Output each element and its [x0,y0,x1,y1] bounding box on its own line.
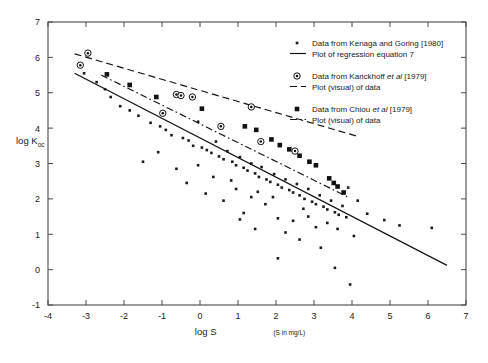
data-point [292,220,295,223]
data-point [272,196,275,199]
data-point [192,145,195,148]
data-point [288,189,291,192]
data-point [287,147,292,152]
data-point [353,235,356,238]
data-point [336,228,339,231]
y-tick-label: 1 [35,230,40,240]
data-point [284,178,287,181]
data-point-core [260,140,263,143]
data-point [226,150,229,153]
data-point [197,164,200,167]
data-point [105,72,110,77]
data-point [269,137,274,142]
data-point [109,96,112,99]
data-point [197,120,200,123]
x-tick-label: 0 [197,311,202,321]
data-point-core [87,52,90,55]
data-point [334,267,337,270]
data-point-core [191,96,194,99]
data-point [307,188,310,191]
data-point-core [294,150,297,153]
x-axis-units: (S in mg/L) [273,329,305,337]
y-tick-label: 0 [35,265,40,275]
data-point [398,224,401,227]
data-point-core [220,125,223,128]
data-point [246,169,249,172]
data-point [206,149,209,152]
data-point [242,166,245,169]
data-point [149,122,152,125]
data-point [315,226,318,229]
data-point [231,160,234,163]
data-point [273,173,276,176]
data-point [254,128,259,133]
x-tick-label: -3 [82,311,90,321]
data-point [334,211,337,214]
legend-marker-chiou [295,107,300,112]
data-point [175,168,178,171]
data-point [137,114,140,117]
data-point-core [180,94,183,97]
data-point [302,207,305,210]
legend-line-label-karickhoff: Plot (visual) of data [312,83,381,92]
x-tick-label: -1 [158,311,166,321]
data-point [292,191,295,194]
data-point [345,216,348,219]
trend-line-kenaga-goring [75,73,447,265]
data-point [356,199,359,202]
y-axis-tick-labels: -101234567 [32,17,40,310]
data-point [341,190,346,195]
x-tick-label: 2 [273,311,278,321]
x-tick-label: -4 [44,311,52,321]
data-point [187,139,190,142]
data-point [235,164,238,167]
y-tick-label: 2 [35,194,40,204]
data-point [318,194,321,197]
data-point [383,219,386,222]
x-tick-label: 6 [425,311,430,321]
data-point [128,109,131,112]
data-point [284,231,287,234]
data-point [258,176,261,179]
legend-label-kenaga-goring: Data from Kenaga and Goring [1980] [312,39,443,48]
data-point [297,153,302,158]
data-point [210,152,213,155]
data-point [322,205,325,208]
legend-label-chiou: Data from Chiou et al [1979] [312,105,412,114]
points-chiou [105,72,346,195]
data-point [157,151,160,154]
data-point [222,199,225,202]
data-point [104,88,107,91]
chart-legend: Data from Kenaga and Goring [1980]Plot o… [290,39,443,125]
legend-marker-karickhoff-core [296,75,299,78]
legend-marker-kenaga-goring [296,42,299,45]
data-point [95,81,98,84]
data-point [185,182,188,185]
data-point [254,172,257,175]
data-point [212,176,215,179]
data-point [182,137,185,140]
data-point [165,129,168,132]
data-point [298,238,301,241]
data-point [250,162,253,165]
data-point [256,191,259,194]
legend-label-karickhoff: Data from Karickhoff et al [1979] [312,72,427,81]
x-axis-tick-labels: -4-3-2-101234567 [44,311,469,321]
data-point-core [250,106,253,109]
data-point [298,194,301,197]
data-point [170,134,173,137]
data-point [142,160,145,163]
y-tick-label: 3 [35,159,40,169]
data-point [127,83,132,88]
data-point [250,196,253,199]
legend-line-label-kenaga-goring: Plot of regression equation 7 [312,50,414,59]
data-point [307,159,312,164]
data-point [235,188,238,191]
x-tick-label: -2 [120,311,128,321]
data-point [326,208,329,211]
x-tick-label: 1 [235,311,240,321]
data-point [277,217,280,220]
data-point [311,200,314,203]
data-point [159,125,162,128]
legend-line-label-chiou: Plot (visual) of data [312,116,381,125]
